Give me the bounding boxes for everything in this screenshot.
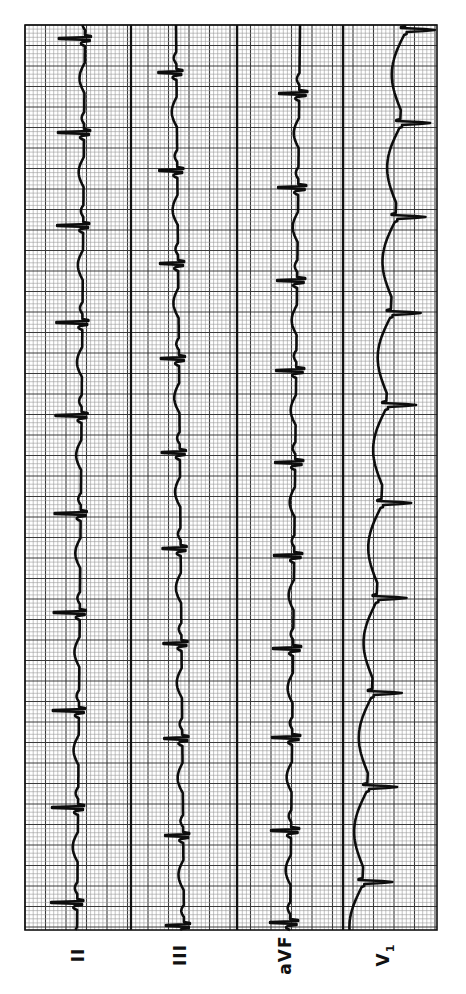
- lead-label-avf: aVF: [275, 935, 295, 974]
- lead-label-v1-text: V: [373, 952, 393, 966]
- lead-label-iii: III: [170, 944, 190, 966]
- ecg-strip: [0, 0, 466, 994]
- lead-label-v1-subscript: 1: [384, 944, 397, 953]
- lead-label-iii-text: III: [170, 944, 190, 966]
- lead-label-ii-text: II: [68, 948, 88, 963]
- lead-label-v1: V1: [373, 944, 396, 967]
- lead-label-ii: II: [68, 948, 88, 963]
- lead-label-avf-text: aVF: [275, 935, 295, 974]
- ecg-grid: [25, 25, 437, 930]
